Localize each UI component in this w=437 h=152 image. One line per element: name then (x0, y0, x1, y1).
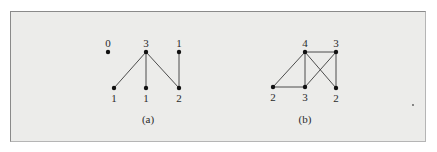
graph-b-nodes (271, 50, 338, 90)
degree-label: 1 (111, 92, 117, 104)
graph-b-edges (273, 52, 336, 88)
stray-dot (412, 104, 414, 106)
degree-label: 3 (333, 37, 339, 49)
caption-b: (b) (299, 113, 312, 126)
degree-label: 2 (270, 91, 276, 103)
degree-label: 4 (302, 37, 308, 49)
degree-label: 2 (333, 92, 339, 104)
graph-a: 0 3 1 1 1 2 (a) (105, 37, 182, 126)
vertex (177, 86, 181, 90)
graph-a-labels: 0 3 1 1 1 2 (105, 37, 182, 104)
vertex (144, 86, 148, 90)
degree-label: 1 (176, 37, 182, 49)
edge (114, 52, 146, 88)
graph-a-edges (114, 52, 179, 88)
degree-label: 1 (143, 92, 149, 104)
degree-label: 0 (105, 37, 111, 49)
vertex (271, 85, 275, 89)
degree-label: 3 (302, 91, 308, 103)
edge (146, 52, 179, 88)
graph-figure: 0 3 1 1 1 2 (a) 4 3 2 (0, 0, 437, 152)
graph-b: 4 3 2 3 2 (b) (270, 37, 339, 126)
vertex (334, 86, 338, 90)
vertex (177, 50, 181, 54)
vertex (112, 86, 116, 90)
vertex (303, 85, 307, 89)
degree-label: 2 (176, 92, 182, 104)
degree-label: 3 (143, 37, 149, 49)
caption-a: (a) (142, 113, 155, 126)
vertex (334, 50, 338, 54)
edge (273, 52, 305, 87)
vertex (303, 50, 307, 54)
vertex (144, 50, 148, 54)
vertex (106, 50, 110, 54)
